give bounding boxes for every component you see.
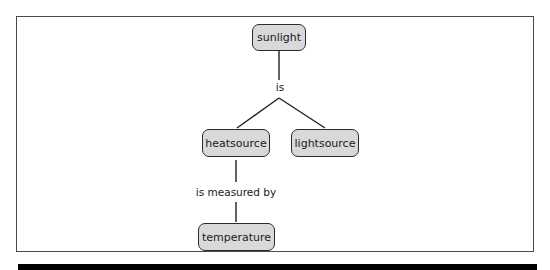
link-label-is-measured-by: is measured by [196, 186, 276, 198]
node-label: temperature [202, 231, 271, 244]
node-label: lightsource [295, 137, 356, 150]
link-label-is: is [276, 81, 284, 93]
node-temperature[interactable]: temperature [198, 223, 275, 251]
node-sunlight[interactable]: sunlight [252, 24, 306, 51]
node-label: heatsource [205, 137, 266, 150]
node-lightsource[interactable]: lightsource [291, 129, 359, 157]
bottom-rule [18, 264, 537, 270]
node-heatsource[interactable]: heatsource [202, 129, 270, 157]
node-label: sunlight [257, 31, 301, 44]
